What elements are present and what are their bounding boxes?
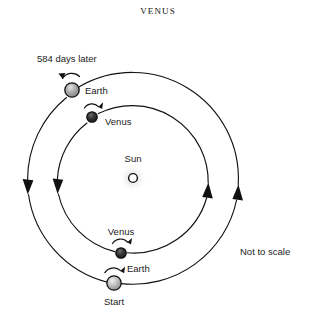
earth-start-spin-arc	[105, 268, 121, 273]
sun-body	[129, 174, 138, 183]
earth-later-spin-arc	[63, 73, 80, 78]
earth-orbit-arrow-left	[23, 179, 34, 194]
venus-orbit-diagram: VENUS Sun Earth 584 days later	[0, 0, 316, 324]
venus-orbit-arc-upper-left	[57, 123, 87, 179]
earth-orbit-arc-upper-left	[28, 98, 67, 180]
venus-orbit-arc-lower-right	[127, 198, 206, 253]
venus-start-spin-arrow	[127, 238, 132, 245]
venus-orbit-arc-lower-left	[58, 194, 114, 252]
not-to-scale-note: Not to scale	[240, 246, 290, 257]
venus-start-body	[116, 248, 126, 258]
earth-start-label: Earth	[127, 263, 150, 274]
start-label: Start	[104, 296, 124, 307]
earth-later-body	[65, 83, 79, 97]
earth-start-spin-arrow	[120, 267, 125, 274]
venus-orbit-arrow-right	[202, 183, 213, 199]
earth-orbit-arc-lower-left	[29, 195, 108, 283]
venus-later-body	[87, 112, 97, 122]
earth-later-label: Earth	[85, 85, 108, 96]
earth-start-body	[107, 276, 121, 290]
venus-later-spin-arrow	[98, 102, 103, 109]
elapsed-time-label: 584 days later	[37, 53, 97, 64]
venus-orbit-arrow-left	[53, 179, 64, 194]
diagram-canvas: VENUS Sun Earth 584 days later	[0, 0, 316, 324]
venus-later-spin-arc	[85, 104, 99, 108]
earth-orbit-arrow-right	[232, 185, 243, 201]
venus-start-spin-arc	[113, 239, 128, 243]
sun-label: Sun	[125, 153, 142, 164]
venus-later-label: Venus	[105, 116, 132, 127]
venus-start-label: Venus	[108, 226, 135, 237]
figure-title: VENUS	[140, 6, 176, 16]
